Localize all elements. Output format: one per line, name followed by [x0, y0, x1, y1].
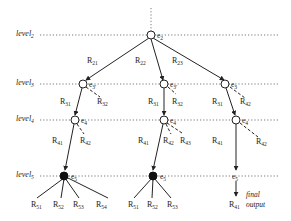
edge-r42-rejected — [166, 124, 171, 134]
node-e3-right — [221, 80, 229, 88]
edge-r22 — [151, 39, 163, 80]
node-e4-left — [71, 116, 79, 124]
edge-label-r41: R41 — [52, 136, 63, 146]
branch-left: R31 R32 R41 R42 R51 R52 R53 R54 e3' e4 e… — [31, 80, 108, 210]
edge-label-r21: R21 — [87, 56, 98, 66]
edge-r42-rejected — [77, 124, 84, 134]
search-tree-diagram: level2 level3 level4 level5 R21 R22 R23 … — [0, 0, 291, 221]
node-e4-middle — [160, 116, 168, 124]
edge-label-r53: R53 — [73, 200, 84, 210]
edge-label-r42: R42 — [80, 136, 91, 146]
level-label-2: level2 — [16, 29, 34, 39]
edge-r31 — [75, 88, 82, 115]
edge-label-r41: R41 — [138, 136, 149, 146]
edge-r41 — [153, 124, 163, 170]
edge-r31 — [226, 88, 235, 115]
branch-right: R31 R42 R41 R42 R41 final output e3 e4 e… — [212, 80, 267, 210]
node-label-e4-right: e4 — [242, 116, 248, 126]
edge-label-r41-final: R41 — [229, 200, 240, 210]
node-label-e3-right: e3 — [231, 80, 237, 90]
edge-r51 — [134, 178, 152, 198]
edge-label-r32: R32 — [97, 97, 108, 107]
edge-label-r43: R43 — [180, 136, 191, 146]
edge-label-r31: R31 — [60, 97, 71, 107]
node-label-e3-middle: e3' — [170, 80, 177, 90]
edge-label-r53: R53 — [167, 200, 178, 210]
node-label-e3-left: e3' — [89, 80, 96, 90]
node-e2 — [147, 31, 155, 39]
final-output-note-line1: final — [246, 190, 260, 199]
edge-label-r42-lower: R42 — [256, 137, 267, 147]
edge-label-r23: R23 — [172, 56, 183, 66]
node-label-e4-left: e4 — [81, 116, 87, 126]
edge-r52 — [152, 179, 153, 198]
edge-r42-rejected — [240, 123, 258, 137]
node-label-e5-left: e5 — [71, 172, 77, 182]
edge-label-r52: R52 — [53, 200, 64, 210]
node-e3-left — [79, 80, 87, 88]
node-label-e5-right: e5 — [232, 172, 238, 182]
edge-label-r41-upper: R41 — [212, 136, 223, 146]
edge-label-r52: R52 — [147, 200, 158, 210]
edge-label-r22: R22 — [135, 56, 146, 66]
level-label-3: level3 — [16, 78, 34, 88]
branch-middle: R31 R32 R41 R42 R43 R51 R52 R53 e3' e4 e… — [128, 80, 191, 210]
edge-r52 — [61, 179, 64, 198]
edge-label-r31: R31 — [212, 97, 223, 107]
edge-label-r42: R42 — [163, 136, 174, 146]
node-label-e2: e2 — [157, 31, 163, 41]
edge-label-r54: R54 — [96, 200, 107, 210]
edge-label-r42-upper: R42 — [240, 97, 251, 107]
final-output-note-line2: output — [246, 200, 266, 209]
level-label-4: level4 — [16, 114, 34, 124]
edge-r41 — [65, 124, 74, 170]
level-label-5: level5 — [16, 170, 34, 180]
edge-label-r32: R32 — [172, 97, 183, 107]
node-e5-middle — [149, 172, 157, 180]
node-e4-right — [232, 116, 240, 124]
node-e5-left — [60, 172, 68, 180]
edge-label-r51: R51 — [128, 200, 139, 210]
node-label-e5-middle: e5 — [160, 172, 166, 182]
edge-r51 — [37, 178, 64, 198]
edge-r23 — [153, 38, 224, 80]
edge-label-r51: R51 — [31, 200, 42, 210]
node-label-e4-middle: e4 — [170, 116, 176, 126]
edge-label-r31: R31 — [148, 97, 159, 107]
node-e3-middle — [160, 80, 168, 88]
